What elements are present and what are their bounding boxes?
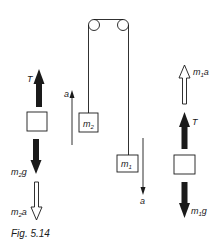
weight-down-arrow-icon-right [179, 182, 190, 218]
mass-m1-label: m1 [121, 159, 132, 170]
weight-left-label: m2g [11, 167, 27, 178]
figure-caption: Fig. 5.14 [11, 228, 50, 239]
fbd-left: T m2g m2a [11, 69, 47, 220]
weight-down-arrow-icon [31, 139, 42, 174]
fbd-right: m1a T m1g [174, 65, 209, 218]
tension-up-arrow-icon-right [179, 112, 190, 149]
accel-left-label: a [64, 89, 69, 99]
inertial-left-label: m2a [11, 207, 27, 218]
weight-right-label: m1g [191, 206, 207, 217]
accel-right-label: a [140, 196, 145, 206]
tension-right-label: T [192, 117, 199, 127]
inertial-right-label: m1a [193, 67, 209, 78]
accel-down-arrow-icon [141, 138, 146, 195]
right-pulley-icon [118, 20, 129, 31]
tension-left-label: T [27, 74, 34, 84]
mass-m2-label: m2 [83, 119, 95, 130]
inertial-down-arrow-icon [31, 182, 42, 220]
fbd-m1-box [174, 155, 195, 174]
pulley-system [79, 20, 138, 173]
tension-up-arrow-icon [34, 69, 45, 107]
inertial-up-arrow-icon [179, 65, 190, 104]
left-pulley-icon [89, 20, 100, 31]
fbd-m2-box [27, 112, 47, 131]
accel-up-arrow-icon [70, 90, 75, 145]
figure-diagram: m2 m1 a a T m2g m2a [0, 0, 219, 242]
